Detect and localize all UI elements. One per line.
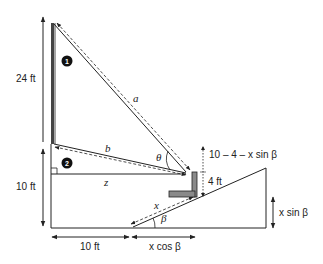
geometry-diagram: 24 ft 10 ft a b θ z 1 2 [0, 0, 323, 264]
dimension-10ft-horizontal: 10 ft [52, 237, 129, 252]
label-4ft: 4 ft [208, 176, 222, 187]
label-z: z [103, 176, 109, 188]
label-theta: θ [156, 151, 162, 163]
svg-text:1: 1 [65, 58, 69, 65]
label-x-sin-beta: x sin β [279, 207, 308, 218]
label-x-cos-beta: x cos β [149, 241, 181, 252]
label-gap-expression: 10 – 4 – x sin β [209, 149, 277, 160]
label-beta: β [160, 212, 167, 224]
dimension-24ft: 24 ft [16, 17, 43, 142]
dimension-x-cos-beta: x cos β [132, 237, 195, 252]
label-x: x [153, 199, 159, 211]
line-a: a [54, 23, 190, 172]
dimension-10ft-vertical: 10 ft [16, 149, 43, 226]
label-10ft-horizontal: 10 ft [80, 241, 100, 252]
label-10ft-vertical: 10 ft [16, 181, 36, 192]
label-a: a [133, 92, 139, 104]
label-b: b [105, 142, 111, 154]
label-24ft: 24 ft [16, 73, 36, 84]
marker-2: 2 [62, 158, 73, 169]
pole [51, 23, 55, 144]
ramp [51, 168, 266, 228]
bracket [169, 172, 197, 197]
marker-1: 1 [62, 56, 73, 67]
angle-beta: β [153, 212, 167, 228]
svg-text:2: 2 [65, 160, 69, 167]
dimension-x-sin-beta: x sin β [273, 197, 308, 228]
